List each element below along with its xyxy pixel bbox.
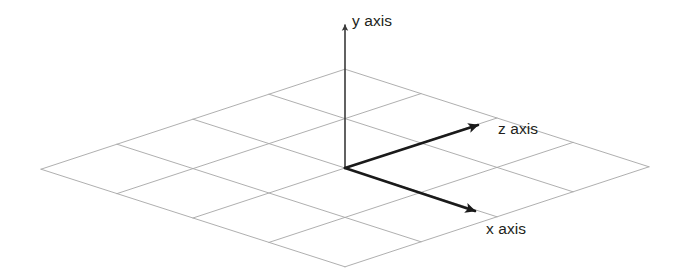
x-axis-line (345, 168, 475, 211)
coordinate-axes-diagram: y axis z axis x axis (0, 0, 681, 279)
y-axis-label: y axis (352, 12, 392, 29)
grid-line-v (41, 69, 345, 169)
z-axis-label: z axis (498, 120, 538, 137)
axes-group (345, 25, 478, 211)
axis-labels-group: y axis z axis x axis (352, 12, 538, 237)
z-axis-line (345, 125, 478, 168)
x-axis-label: x axis (486, 220, 526, 237)
diagram-canvas: y axis z axis x axis (0, 0, 681, 279)
